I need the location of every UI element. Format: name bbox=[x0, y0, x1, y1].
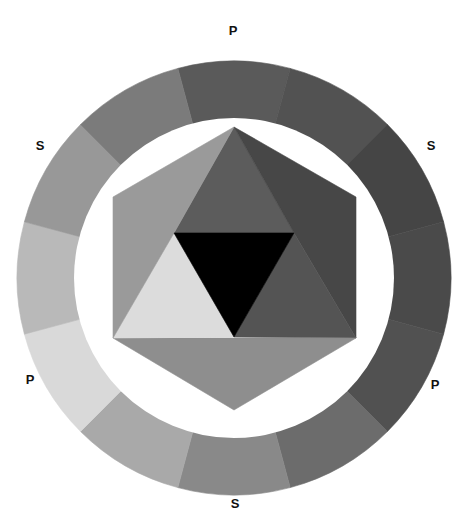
label-primary-top: P bbox=[229, 24, 238, 37]
label-secondary-bottom: S bbox=[231, 497, 240, 510]
label-secondary-upper-right: S bbox=[427, 139, 436, 152]
label-primary-lower-left: P bbox=[26, 373, 35, 386]
color-circle-diagram bbox=[0, 0, 469, 515]
label-secondary-upper-left: S bbox=[36, 139, 45, 152]
label-primary-lower-right: P bbox=[431, 378, 440, 391]
